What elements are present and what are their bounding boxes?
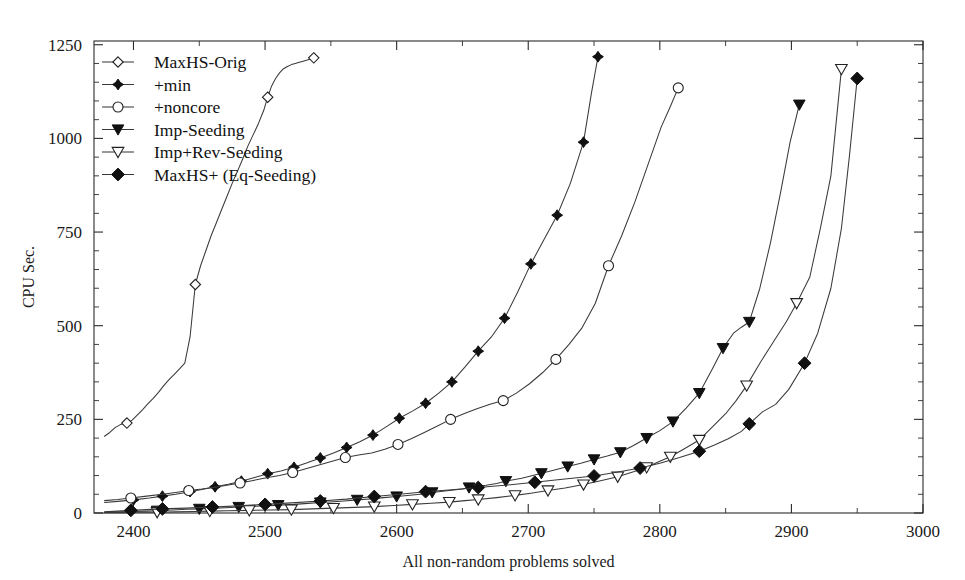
data-point-marker: [341, 442, 352, 453]
legend-label: Imp-Seeding: [154, 120, 245, 140]
data-point-marker: [124, 504, 137, 517]
y-axis-tick-label: 250: [57, 410, 83, 429]
data-point-marker: [368, 490, 381, 503]
data-point-marker: [551, 354, 561, 364]
data-point-marker: [393, 439, 403, 449]
data-point-marker: [641, 433, 653, 443]
data-point-marker: [190, 279, 200, 289]
data-point-marker: [528, 476, 541, 489]
data-point-marker: [525, 258, 536, 269]
data-point-marker: [798, 357, 811, 370]
legend-entry-maxhs-orig: MaxHS-Orig: [102, 52, 247, 72]
chart-svg: MaxHS-Orig+min+noncoreImp-SeedingImp+Rev…: [0, 0, 965, 580]
data-point-marker: [314, 495, 327, 508]
legend-marker-icon: [113, 102, 123, 112]
data-point-marker: [394, 413, 405, 424]
data-point-marker: [717, 344, 729, 354]
legend-layer: MaxHS-Orig+min+noncoreImp-SeedingImp+Rev…: [102, 52, 316, 185]
legend-entry-imp-rev-seeding: Imp+Rev-Seeding: [102, 142, 283, 162]
data-point-marker: [184, 486, 194, 496]
data-point-marker: [419, 485, 432, 498]
y-axis-tick-label: 750: [57, 223, 83, 242]
x-axis-title: All non-random problems solved: [403, 553, 615, 571]
legend-label: Imp+Rev-Seeding: [154, 142, 283, 162]
data-point-marker: [615, 448, 627, 458]
data-point-marker: [157, 491, 168, 502]
data-point-marker: [498, 396, 508, 406]
legend-label: +noncore: [154, 97, 220, 117]
data-point-marker: [741, 381, 753, 391]
legend-marker-icon: [113, 79, 124, 90]
legend-entry-min: +min: [102, 75, 191, 95]
x-axis-tick-label: 2400: [116, 522, 150, 541]
data-point-marker: [122, 418, 132, 428]
data-point-marker: [744, 317, 756, 327]
data-point-marker: [499, 313, 510, 324]
legend-label: +min: [154, 75, 191, 95]
data-point-marker: [593, 51, 604, 62]
data-point-marker: [694, 435, 706, 445]
y-axis-tick-label: 1250: [48, 36, 82, 55]
legend-entry-noncore: +noncore: [102, 97, 220, 117]
data-point-marker: [340, 453, 350, 463]
legend-label: MaxHS-Orig: [154, 52, 247, 72]
x-axis-tick-label: 2500: [248, 522, 282, 541]
x-axis-tick-label: 3000: [906, 522, 940, 541]
legend-label: MaxHS+ (Eq-Seeding): [154, 165, 316, 185]
x-axis-tick-label: 2600: [380, 522, 414, 541]
legend-marker-icon: [112, 168, 125, 181]
legend-entry-imp-seeding: Imp-Seeding: [102, 120, 245, 140]
data-point-marker: [794, 100, 806, 110]
x-axis-tick-label: 2700: [511, 522, 545, 541]
cactus-plot-figure: MaxHS-Orig+min+noncoreImp-SeedingImp+Rev…: [0, 0, 965, 580]
data-point-marker: [420, 398, 431, 409]
data-point-marker: [578, 137, 589, 148]
data-point-marker: [604, 261, 614, 271]
data-point-marker: [693, 445, 706, 458]
data-point-marker: [588, 455, 600, 465]
y-axis-tick-label: 1000: [48, 129, 82, 148]
data-point-marker: [309, 53, 319, 63]
y-axis-tick-label: 500: [57, 317, 83, 336]
y-axis-title: CPU Sec.: [20, 246, 37, 308]
data-point-marker: [288, 468, 298, 478]
data-point-marker: [446, 414, 456, 424]
legend-marker-icon: [113, 57, 123, 67]
y-axis-tick-label: 0: [74, 504, 83, 523]
x-axis-tick-label: 2800: [643, 522, 677, 541]
data-point-marker: [126, 493, 136, 503]
x-axis-tick-label: 2900: [774, 522, 808, 541]
data-point-marker: [552, 210, 563, 221]
data-point-marker: [315, 453, 326, 464]
data-point-marker: [259, 498, 272, 511]
legend-entry-maxhs-eq-seeding: MaxHS+ (Eq-Seeding): [102, 165, 316, 185]
data-point-marker: [836, 64, 848, 74]
data-point-marker: [673, 83, 683, 93]
data-point-marker: [791, 299, 803, 309]
data-point-marker: [235, 478, 245, 488]
data-point-marker: [667, 417, 679, 427]
data-point-marker: [851, 72, 864, 85]
data-point-marker: [368, 430, 379, 441]
data-point-marker: [262, 92, 272, 102]
